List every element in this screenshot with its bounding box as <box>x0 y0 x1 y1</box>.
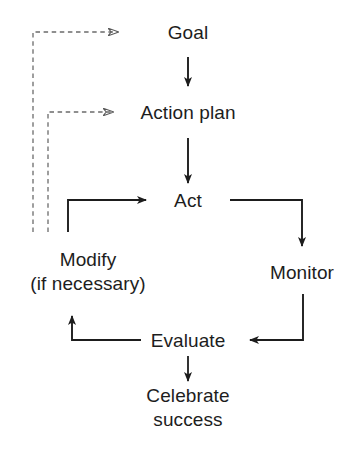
node-modify: Modify <box>60 248 117 271</box>
node-celebrate-line1: Celebrate <box>146 384 229 407</box>
node-modify-qualifier: (if necessary) <box>30 272 145 295</box>
edge-evaluate-to-modify <box>72 316 141 340</box>
edge-act-to-monitor <box>230 200 302 246</box>
edge-modify-to-act <box>68 200 146 232</box>
node-monitor: Monitor <box>270 261 334 284</box>
node-action-plan: Action plan <box>140 101 235 124</box>
node-goal: Goal <box>168 21 209 44</box>
edge-modify-to-action-plan <box>48 112 113 232</box>
node-evaluate: Evaluate <box>151 329 226 352</box>
node-act: Act <box>174 189 202 212</box>
edge-modify-to-goal <box>33 32 118 232</box>
node-celebrate-line2: success <box>153 408 222 431</box>
edge-monitor-to-evaluate <box>250 294 303 340</box>
